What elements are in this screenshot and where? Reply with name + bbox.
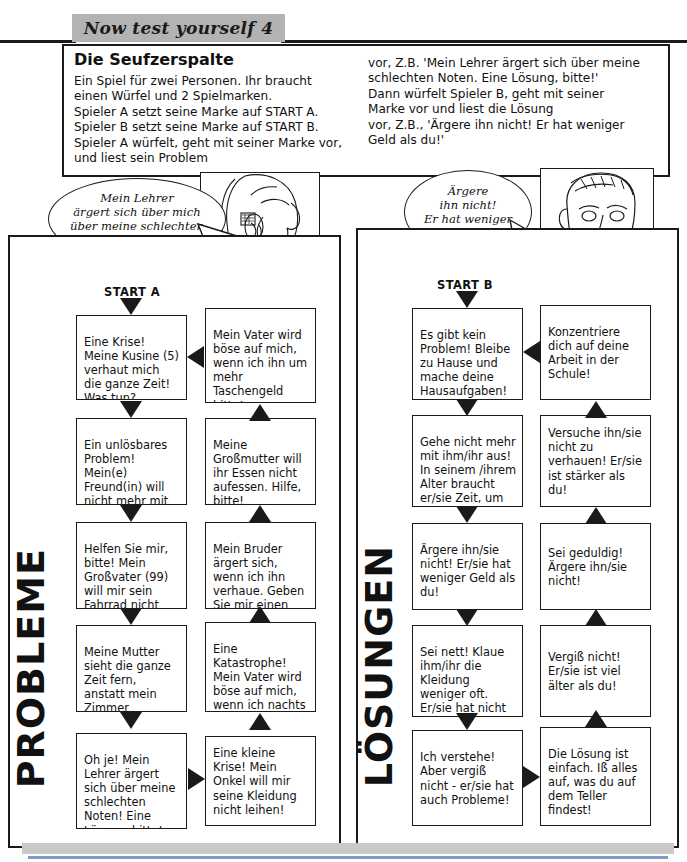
loesungen-box-10-text: Die Lösung ist einfach. Iß alles auf, wa…	[548, 747, 644, 817]
loesungen-box-2[interactable]: Konzentriere dich auf deine Arbeit in de…	[540, 305, 651, 400]
loesungen-box-10[interactable]: Die Lösung ist einfach. Iß alles auf, wa…	[540, 727, 651, 826]
arrow-down-l5-l7	[456, 609, 478, 626]
loesungen-box-6[interactable]: Sei geduldig! Ärgere ihn/sie nicht!	[540, 523, 651, 610]
loesungen-box-1[interactable]: Es gibt kein Problem! Bleibe zu Hause un…	[412, 308, 523, 400]
arrow-left-p2-p1	[187, 346, 204, 368]
probleme-box-10[interactable]: Eine kleine Krise! Mein Onkel will mir s…	[205, 736, 316, 826]
loesungen-box-3[interactable]: Gehe nicht mehr mit ihm/ihr aus! In sein…	[412, 415, 523, 507]
arrow-down-start-a	[120, 298, 142, 315]
arrow-down-p3-p5	[120, 505, 142, 522]
section-banner-label: Now test yourself 4	[84, 18, 274, 38]
loesungen-box-4[interactable]: Versuche ihn/sie nicht zu verhauen! Er/s…	[540, 415, 651, 507]
arrow-down-l7-l9	[456, 713, 478, 730]
probleme-box-8-text: Eine Katastrophe! Mein Vater wird böse a…	[213, 642, 309, 712]
start-b-label: START B	[437, 278, 493, 292]
probleme-box-9[interactable]: Oh je! Mein Lehrer ärgert sich über mein…	[76, 733, 187, 829]
loesungen-box-2-text: Konzentriere dich auf deine Arbeit in de…	[548, 325, 644, 381]
arrow-down-p5-p7	[120, 608, 142, 625]
header-rule-left	[0, 40, 76, 43]
instructions-right-text: vor, Z.B. 'Mein Lehrer ärgert sich über …	[368, 56, 664, 148]
arrow-up-p4-p2	[249, 404, 271, 421]
footer-bar	[22, 843, 674, 854]
footer-rule	[28, 856, 668, 859]
loesungen-box-7[interactable]: Sei nett! Klaue ihm/ihr die Kleidung wen…	[412, 625, 523, 717]
arrow-down-l3-l5	[456, 506, 478, 523]
loesungen-side-label: LÖSUNGEN	[360, 545, 398, 787]
probleme-box-3[interactable]: Ein unlösbares Problem! Mein(e) Freund(i…	[76, 418, 187, 505]
loesungen-box-4-text: Versuche ihn/sie nicht zu verhauen! Er/s…	[548, 426, 644, 496]
arrow-up-l4-l2	[585, 401, 607, 418]
arrow-right-l9-l10	[523, 766, 540, 788]
loesungen-box-9[interactable]: Ich verstehe! Aber vergiß nicht - er/sie…	[412, 730, 523, 826]
loesungen-box-1-text: Es gibt kein Problem! Bleibe zu Hause un…	[420, 328, 516, 398]
arrow-down-start-b	[456, 291, 478, 308]
arrow-up-l6-l4	[585, 507, 607, 524]
arrow-down-l1-l3	[456, 399, 478, 416]
probleme-box-7[interactable]: Meine Mutter sieht die ganze Zeit fern, …	[76, 625, 187, 712]
probleme-box-4[interactable]: Meine Großmutter will ihr Essen nicht au…	[205, 418, 316, 505]
loesungen-box-8-text: Vergiß nicht! Er/sie ist viel älter als …	[548, 650, 644, 692]
probleme-box-2-text: Mein Vater wird böse auf mich, wenn ich …	[213, 328, 309, 403]
header-rule-right	[281, 40, 687, 43]
loesungen-box-7-text: Sei nett! Klaue ihm/ihr die Kleidung wen…	[420, 645, 516, 717]
arrow-up-p6-p4	[249, 505, 271, 522]
loesungen-box-3-text: Gehe nicht mehr mit ihm/ihr aus! In sein…	[420, 435, 516, 507]
arrow-up-p10-p8	[249, 713, 271, 730]
loesungen-box-9-text: Ich verstehe! Aber vergiß nicht - er/sie…	[420, 750, 516, 806]
start-a-label: START A	[104, 285, 160, 299]
probleme-side-label: PROBLEME	[12, 548, 50, 788]
probleme-box-7-text: Meine Mutter sieht die ganze Zeit fern, …	[84, 645, 180, 712]
arrow-up-l8-l6	[585, 609, 607, 626]
probleme-box-8[interactable]: Eine Katastrophe! Mein Vater wird böse a…	[205, 622, 316, 712]
probleme-box-1[interactable]: Eine Krise! Meine Kusine (5) verhaut mic…	[76, 315, 187, 400]
arrow-down-p1-p3	[120, 401, 142, 418]
probleme-box-10-text: Eine kleine Krise! Mein Onkel will mir s…	[213, 746, 309, 816]
probleme-box-5[interactable]: Helfen Sie mir, bitte! Mein Großvater (9…	[76, 522, 187, 609]
instructions-title: Die Seufzerspalte	[74, 50, 234, 69]
instructions-left-text: Ein Spiel für zwei Personen. Ihr braucht…	[74, 74, 354, 166]
arrow-down-p7-p9	[120, 712, 142, 729]
probleme-box-1-text: Eine Krise! Meine Kusine (5) verhaut mic…	[84, 335, 180, 400]
loesungen-box-8[interactable]: Vergiß nicht! Er/sie ist viel älter als …	[540, 625, 651, 717]
arrow-right-p9-p10	[188, 768, 205, 790]
arrow-up-p8-p6	[249, 606, 271, 623]
probleme-box-9-text: Oh je! Mein Lehrer ärgert sich über mein…	[84, 753, 180, 829]
arrow-up-l10-l8	[585, 710, 607, 727]
probleme-box-4-text: Meine Großmutter will ihr Essen nicht au…	[213, 438, 309, 505]
probleme-box-3-text: Ein unlösbares Problem! Mein(e) Freund(i…	[84, 438, 180, 505]
probleme-box-2[interactable]: Mein Vater wird böse auf mich, wenn ich …	[205, 308, 316, 403]
probleme-box-5-text: Helfen Sie mir, bitte! Mein Großvater (9…	[84, 542, 180, 609]
arrow-left-l2-l1	[523, 341, 540, 363]
probleme-box-6[interactable]: Mein Bruder ärgert sich, wenn ich ihn ve…	[205, 522, 316, 609]
probleme-box-6-text: Mein Bruder ärgert sich, wenn ich ihn ve…	[213, 542, 309, 609]
loesungen-box-5[interactable]: Ärgere ihn/sie nicht! Er/sie hat weniger…	[412, 523, 523, 610]
loesungen-box-6-text: Sei geduldig! Ärgere ihn/sie nicht!	[548, 546, 644, 588]
loesungen-box-5-text: Ärgere ihn/sie nicht! Er/sie hat weniger…	[420, 543, 516, 599]
section-banner: Now test yourself 4	[72, 14, 285, 42]
